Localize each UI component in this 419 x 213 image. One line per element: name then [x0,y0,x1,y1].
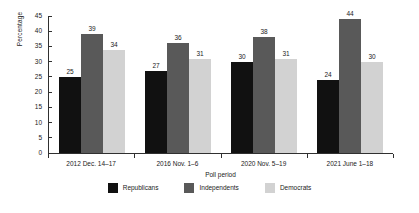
bar-group: 244430 [307,14,393,153]
y-tick-label: 10 [35,118,42,128]
bar-independents[interactable] [253,37,275,153]
x-axis-title: Poll period [48,170,393,180]
bar-value-label: 38 [253,28,275,36]
x-axis-category-label: 2021 June 1–18 [307,158,393,170]
bar-value-label: 30 [361,53,383,61]
bar-value-label: 31 [189,50,211,58]
bar-chart: Percentage 051015202530354045 2539342736… [0,0,419,213]
legend-swatch-icon [108,183,118,193]
bar-republicans[interactable] [317,80,339,153]
legend-label: Republicans [123,183,159,193]
bar-group: 303831 [221,14,307,153]
x-axis-category-label: 2016 Nov. 1–6 [134,158,220,170]
x-tick-mark [393,154,394,158]
legend-label: Democrats [280,183,311,193]
x-axis-category-label: 2012 Dec. 14–17 [48,158,134,170]
bar-item[interactable]: 30 [231,14,253,153]
bar-independents[interactable] [339,19,361,153]
bar-group: 253934 [49,14,135,153]
bar-value-label: 39 [81,25,103,33]
legend-label: Independents [199,183,238,193]
x-axis-category-label: 2020 Nov. 5–19 [221,158,307,170]
y-tick-label: 5 [38,133,42,143]
y-tick-label: 25 [35,72,42,82]
bar-democrats[interactable] [189,59,211,153]
plot-area: 051015202530354045 253934273631303831244… [48,14,393,154]
bar-value-label: 24 [317,71,339,79]
x-axis-labels: 2012 Dec. 14–172016 Nov. 1–62020 Nov. 5–… [48,158,393,170]
bar-democrats[interactable] [361,62,383,153]
bar-groups: 253934273631303831244430 [49,14,393,153]
bar-value-label: 27 [145,62,167,70]
y-tick-label: 45 [35,11,42,21]
bar-value-label: 25 [59,68,81,76]
y-axis-title: Percentage [14,0,26,64]
y-tick-label: 15 [35,102,42,112]
bar-democrats[interactable] [103,50,125,154]
bar-item[interactable]: 24 [317,14,339,153]
legend-swatch-icon [184,183,194,193]
bar-item[interactable]: 39 [81,14,103,153]
bar-item[interactable]: 36 [167,14,189,153]
bar-item[interactable]: 31 [275,14,297,153]
bar-item[interactable]: 31 [189,14,211,153]
bar-value-label: 44 [339,10,361,18]
bar-republicans[interactable] [231,62,253,153]
bar-democrats[interactable] [275,59,297,153]
legend-swatch-icon [265,183,275,193]
bar-group: 273631 [135,14,221,153]
chart-legend: RepublicansIndependentsDemocrats [0,183,419,193]
bar-item[interactable]: 30 [361,14,383,153]
y-tick-label: 0 [38,148,42,158]
bar-value-label: 36 [167,34,189,42]
y-tick-label: 40 [35,26,42,36]
bar-value-label: 31 [275,50,297,58]
bar-item[interactable]: 38 [253,14,275,153]
y-tick-label: 35 [35,41,42,51]
legend-item-democrats[interactable]: Democrats [265,183,311,193]
legend-item-independents[interactable]: Independents [184,183,238,193]
bar-item[interactable]: 27 [145,14,167,153]
bar-item[interactable]: 25 [59,14,81,153]
y-tick-label: 20 [35,87,42,97]
bar-value-label: 34 [103,41,125,49]
y-tick-label: 30 [35,57,42,67]
bar-independents[interactable] [167,43,189,153]
bar-independents[interactable] [81,34,103,153]
bar-item[interactable]: 34 [103,14,125,153]
bar-republicans[interactable] [145,71,167,153]
bar-value-label: 30 [231,53,253,61]
legend-item-republicans[interactable]: Republicans [108,183,159,193]
bar-item[interactable]: 44 [339,14,361,153]
bar-republicans[interactable] [59,77,81,153]
